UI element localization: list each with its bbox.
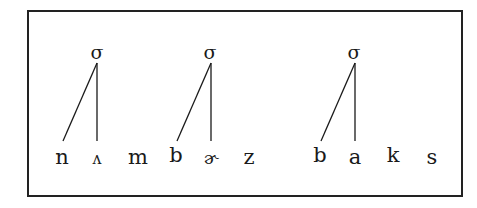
syllable-node: σ <box>348 43 361 62</box>
association-line-onset <box>177 63 211 141</box>
segment: m <box>128 147 148 168</box>
segment: z <box>243 147 254 168</box>
association-line-onset <box>63 63 97 141</box>
segment: n <box>55 147 69 168</box>
segment: a <box>349 147 362 168</box>
segment: k <box>387 145 400 166</box>
association-line-onset <box>321 63 355 141</box>
segment: b <box>313 145 326 166</box>
association-lines <box>0 0 477 208</box>
segment: ɚ <box>204 150 218 167</box>
syllable-node: σ <box>204 43 217 62</box>
segment: ʌ <box>92 151 101 167</box>
syllable-node: σ <box>91 43 104 62</box>
segment: b <box>169 145 182 166</box>
segment: s <box>427 147 438 168</box>
